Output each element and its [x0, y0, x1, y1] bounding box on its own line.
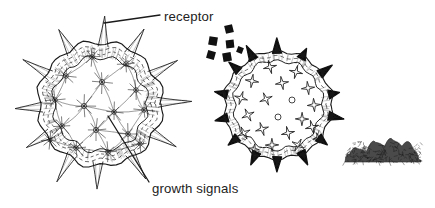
growth-signals-label: growth signals [152, 181, 239, 196]
cell-signalling-figure: receptor growth signals [0, 0, 435, 208]
signal-square [226, 40, 235, 49]
signal-square [208, 36, 218, 46]
figure-background [0, 0, 435, 208]
receptor-label: receptor [164, 9, 214, 24]
diagram-canvas: receptor growth signals [0, 0, 435, 208]
signal-square [222, 52, 232, 62]
